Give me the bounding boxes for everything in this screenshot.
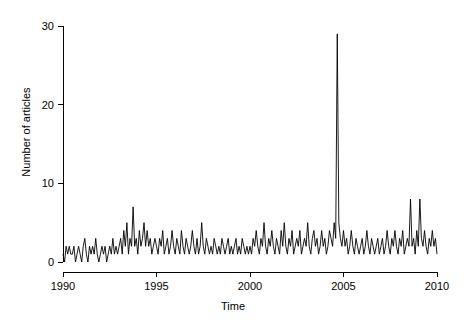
y-axis bbox=[58, 26, 63, 262]
y-tick-label-0: 0 bbox=[48, 256, 54, 268]
x-tick-label-2005: 2005 bbox=[331, 280, 355, 292]
x-axis bbox=[63, 272, 437, 277]
y-tick-labels: 0102030 bbox=[42, 20, 54, 268]
x-tick-label-1995: 1995 bbox=[144, 280, 168, 292]
y-tick-label-10: 10 bbox=[42, 177, 54, 189]
x-tick-label-2010: 2010 bbox=[425, 280, 449, 292]
y-tick-label-30: 30 bbox=[42, 20, 54, 32]
y-tick-marks bbox=[58, 26, 63, 262]
y-tick-label-20: 20 bbox=[42, 99, 54, 111]
x-tick-labels: 19901995200020052010 bbox=[51, 280, 449, 292]
x-axis-title: Time bbox=[0, 300, 466, 312]
y-axis-title: Number of articles bbox=[20, 62, 32, 202]
series-line-number-of-articles bbox=[63, 34, 437, 262]
x-tick-marks bbox=[63, 272, 437, 277]
y-axis-title-wrap: Number of articles bbox=[2, 0, 24, 326]
x-tick-label-1990: 1990 bbox=[51, 280, 75, 292]
chart-container: 0102030 19901995200020052010 Number of a… bbox=[0, 0, 466, 326]
x-tick-label-2000: 2000 bbox=[238, 280, 262, 292]
chart-plot-area: 0102030 19901995200020052010 bbox=[0, 0, 466, 326]
